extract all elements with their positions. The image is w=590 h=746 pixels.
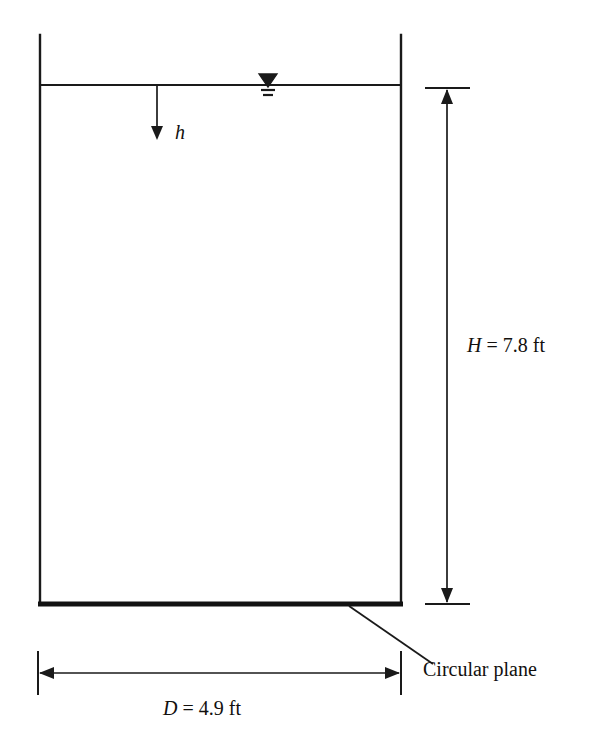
height-dimension-label: H = 7.8 ft [467, 335, 545, 355]
down-arrow-icon [441, 588, 453, 603]
right-arrow-icon [385, 667, 400, 679]
depth-label-h: h [175, 122, 185, 142]
up-arrow-icon [441, 89, 453, 104]
circular-plane-leader-line [349, 606, 433, 664]
water-surface [40, 74, 401, 95]
left-arrow-icon [39, 667, 54, 679]
height-value: 7.8 [503, 334, 528, 356]
down-arrow-icon [151, 126, 163, 140]
circular-plane-callout-label: Circular plane [423, 659, 537, 679]
diameter-value: 4.9 [199, 697, 224, 719]
depth-arrow-h [151, 85, 163, 140]
figure-canvas: h H = 7.8 ft D = 4.9 ft Circular plane [0, 0, 590, 746]
diameter-dimension [38, 651, 401, 695]
diagram-drawing [0, 0, 590, 746]
diameter-unit: ft [229, 697, 241, 719]
diameter-symbol: D [163, 697, 177, 719]
height-unit: ft [533, 334, 545, 356]
tank-outline [38, 35, 403, 604]
height-symbol: H [467, 334, 481, 356]
height-dimension [425, 88, 470, 604]
diameter-dimension-label: D = 4.9 ft [163, 698, 241, 718]
